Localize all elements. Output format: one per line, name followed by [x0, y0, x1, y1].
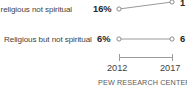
slope-marker-row-1-2012: [117, 37, 121, 41]
x-axis-label-2017: 2017: [160, 64, 180, 73]
slope-chart: her religious not spiritual 16% 1 Religi…: [0, 0, 187, 91]
slope-line-row-0: [119, 2, 172, 9]
pew-research-center-credit: PEW RESEARCH CENTER: [98, 79, 187, 86]
slope-marker-row-0-2017: [170, 0, 174, 4]
x-axis-tick-2017: [172, 54, 173, 61]
slope-marker-row-1-2017: [170, 37, 174, 41]
x-axis-tick-2012: [119, 54, 120, 61]
slope-marker-row-0-2012: [117, 7, 121, 11]
x-axis-label-2012: 2012: [107, 64, 127, 73]
x-axis-rule: [119, 57, 172, 58]
